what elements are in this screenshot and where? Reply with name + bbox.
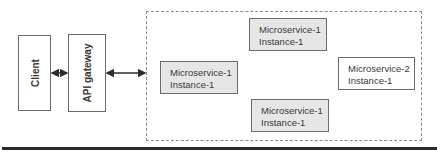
connector-layer: [0, 0, 437, 155]
bottom-rule: [2, 147, 437, 150]
